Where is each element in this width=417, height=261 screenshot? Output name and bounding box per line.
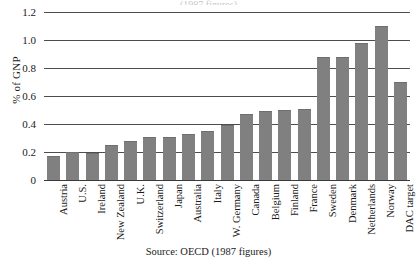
x-label-slot: Belgium: [256, 182, 275, 244]
x-label-slot: Switzerland: [140, 182, 159, 244]
y-tick-label: 0: [31, 174, 37, 186]
x-label-slot: Canada: [237, 182, 256, 244]
bar: [143, 137, 156, 180]
x-tick-label: DAC target: [404, 184, 415, 233]
bar-slot: [102, 12, 121, 180]
bar-slot: [198, 12, 217, 180]
y-tick-label: 0.4: [22, 118, 36, 130]
bar: [298, 109, 311, 180]
bar-slot: [121, 12, 140, 180]
x-label-slot: U.S.: [63, 182, 82, 244]
bar: [336, 57, 349, 180]
bar-slot: [63, 12, 82, 180]
bar: [86, 153, 99, 180]
y-tick-label: 0.6: [22, 90, 36, 102]
x-label-slot: Austria: [44, 182, 63, 244]
bar-slot: [372, 12, 391, 180]
bar-slot: [256, 12, 275, 180]
bar-slot: [217, 12, 236, 180]
bar-slot: [160, 12, 179, 180]
bar-slot: [275, 12, 294, 180]
y-tick-label: 1.0: [22, 34, 36, 46]
x-label-slot: Norway: [372, 182, 391, 244]
bar: [124, 141, 137, 180]
bar-slot: [294, 12, 313, 180]
axis-baseline: [44, 180, 410, 181]
plot-area: [44, 12, 410, 180]
bar: [278, 110, 291, 180]
x-label-slot: U.K.: [121, 182, 140, 244]
x-label-slot: Denmark: [333, 182, 352, 244]
bar: [105, 145, 118, 180]
x-label-slot: W. Germany: [217, 182, 236, 244]
x-label-slot: Sweden: [314, 182, 333, 244]
y-tick-label: 1.2: [22, 6, 36, 18]
chart-figure: (1987 figures) % of GNP 1.21.00.80.60.40…: [0, 0, 417, 261]
source-caption: Source: OECD (1987 figures): [0, 246, 417, 257]
x-label-slot: Ireland: [83, 182, 102, 244]
x-axis-tick-labels: AustriaU.S.IrelandNew ZealandU.K.Switzer…: [44, 182, 410, 244]
x-label-slot: Netherlands: [352, 182, 371, 244]
bar: [201, 131, 214, 180]
x-label-slot: Italy: [198, 182, 217, 244]
x-label-slot: Finland: [275, 182, 294, 244]
y-tick-label: 0.2: [22, 146, 36, 158]
bar: [163, 137, 176, 180]
x-label-slot: Japan: [160, 182, 179, 244]
bar-slot: [237, 12, 256, 180]
x-label-slot: New Zealand: [102, 182, 121, 244]
bar-slot: [333, 12, 352, 180]
bar: [47, 156, 60, 180]
bar-slot: [140, 12, 159, 180]
bar: [355, 43, 368, 180]
x-label-slot: Australia: [179, 182, 198, 244]
bar-slot: [352, 12, 371, 180]
bar-slot: [179, 12, 198, 180]
bar: [66, 152, 79, 180]
x-label-slot: DAC target: [391, 182, 410, 244]
bar-series: [44, 12, 410, 180]
bar-slot: [83, 12, 102, 180]
bar-slot: [44, 12, 63, 180]
bar: [394, 82, 407, 180]
y-axis-ticks: 1.21.00.80.60.40.20: [0, 12, 40, 180]
x-label-slot: France: [294, 182, 313, 244]
bar: [221, 125, 234, 180]
y-tick-label: 0.8: [22, 62, 36, 74]
bar-slot: [314, 12, 333, 180]
bar-slot: [391, 12, 410, 180]
bar: [375, 26, 388, 180]
bar: [317, 57, 330, 180]
clipped-title: (1987 figures): [0, 0, 417, 5]
bar: [182, 134, 195, 180]
bar: [240, 114, 253, 180]
bar: [259, 111, 272, 180]
